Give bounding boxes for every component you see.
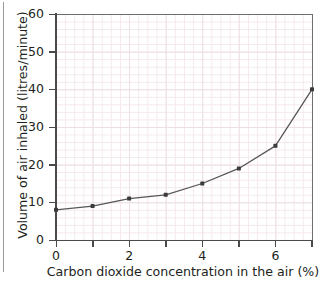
x-tick-label-2: 2 bbox=[125, 250, 133, 263]
x-tick-label-4: 4 bbox=[198, 250, 206, 263]
y-axis-title: Volume of air inhaled (litres/minute) bbox=[14, 5, 32, 245]
y-tick-mark-10 bbox=[49, 202, 56, 204]
plot-area bbox=[56, 14, 312, 240]
plot-frame-right bbox=[312, 14, 313, 241]
x-axis-title: Carbon dioxide concentration in the air … bbox=[40, 265, 326, 279]
x-tick-mark-0 bbox=[56, 240, 58, 247]
grid-major bbox=[56, 14, 312, 240]
x-tick-label-6: 6 bbox=[272, 250, 280, 263]
x-tick-mark-7 bbox=[311, 240, 313, 247]
x-tick-label-0: 0 bbox=[52, 250, 60, 263]
x-tick-mark-6 bbox=[275, 240, 277, 247]
x-tick-mark-3 bbox=[165, 240, 167, 247]
y-tick-mark-40 bbox=[49, 89, 56, 91]
x-tick-mark-4 bbox=[202, 240, 204, 247]
y-tick-mark-30 bbox=[49, 127, 56, 129]
figure-root: 60 50 40 30 20 10 0 0 2 4 6 Volume of ai… bbox=[0, 0, 326, 285]
page-margin-rule bbox=[3, 2, 4, 272]
x-tick-mark-5 bbox=[238, 240, 240, 247]
y-tick-mark-20 bbox=[49, 164, 56, 166]
y-tick-mark-50 bbox=[49, 51, 56, 53]
y-tick-label-0: 0 bbox=[36, 234, 44, 247]
clipped-text-above-figure bbox=[10, 0, 190, 3]
x-tick-mark-2 bbox=[129, 240, 131, 247]
plot-frame-top bbox=[56, 14, 313, 15]
x-tick-mark-1 bbox=[92, 240, 94, 247]
y-tick-mark-60 bbox=[49, 14, 56, 16]
